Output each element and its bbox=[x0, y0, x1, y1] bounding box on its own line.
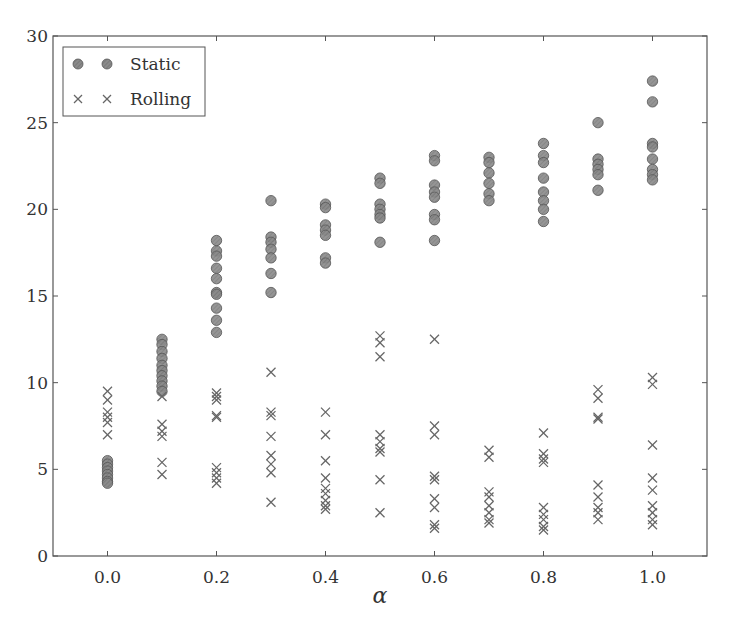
rolling-point bbox=[212, 411, 221, 420]
static-point bbox=[538, 216, 548, 226]
rolling-point bbox=[103, 408, 112, 417]
rolling-point bbox=[158, 427, 167, 436]
rolling-point bbox=[648, 520, 657, 529]
rolling-point bbox=[212, 463, 221, 472]
rolling-point bbox=[539, 428, 548, 437]
rolling-point bbox=[485, 493, 494, 502]
rolling-point bbox=[267, 432, 276, 441]
static-point bbox=[375, 213, 385, 223]
rolling-point bbox=[430, 494, 439, 503]
y-tick-label: 30 bbox=[26, 26, 48, 46]
static-point bbox=[484, 178, 494, 188]
static-point bbox=[593, 117, 603, 127]
rolling-point bbox=[594, 413, 603, 422]
circle-marker-icon bbox=[102, 59, 112, 69]
static-point bbox=[320, 230, 330, 240]
static-point bbox=[320, 258, 330, 268]
static-point bbox=[538, 138, 548, 148]
legend-label-rolling: Rolling bbox=[130, 89, 191, 109]
rolling-point bbox=[648, 441, 657, 450]
y-tick-label: 10 bbox=[26, 373, 48, 393]
rolling-point bbox=[158, 432, 167, 441]
static-point bbox=[484, 195, 494, 205]
x-axis: 0.00.20.40.60.81.0 bbox=[94, 36, 666, 587]
rolling-point bbox=[430, 430, 439, 439]
static-point bbox=[211, 263, 221, 273]
rolling-point bbox=[594, 394, 603, 403]
rolling-point bbox=[648, 515, 657, 524]
rolling-point bbox=[430, 503, 439, 512]
rolling-point bbox=[376, 508, 385, 517]
x-tick-label: 0.2 bbox=[203, 567, 230, 587]
static-point bbox=[211, 303, 221, 313]
static-point bbox=[647, 97, 657, 107]
rolling-point bbox=[321, 484, 330, 493]
static-point bbox=[538, 173, 548, 183]
rolling-point bbox=[594, 415, 603, 424]
static-point bbox=[266, 268, 276, 278]
rolling-point bbox=[158, 458, 167, 467]
static-point bbox=[211, 273, 221, 283]
series-rolling-points bbox=[103, 331, 657, 534]
legend: Static Rolling bbox=[63, 47, 205, 116]
static-point bbox=[593, 169, 603, 179]
static-point bbox=[266, 253, 276, 263]
x-tick-label: 0.0 bbox=[94, 567, 121, 587]
y-tick-label: 25 bbox=[26, 113, 48, 133]
rolling-point bbox=[594, 503, 603, 512]
rolling-point bbox=[321, 456, 330, 465]
static-point bbox=[266, 287, 276, 297]
rolling-point bbox=[212, 413, 221, 422]
rolling-point bbox=[648, 486, 657, 495]
rolling-point bbox=[103, 396, 112, 405]
rolling-point bbox=[267, 451, 276, 460]
static-point bbox=[266, 195, 276, 205]
static-point bbox=[429, 156, 439, 166]
static-point bbox=[102, 478, 112, 488]
static-point bbox=[429, 215, 439, 225]
static-point bbox=[157, 386, 167, 396]
static-point bbox=[211, 289, 221, 299]
y-tick-label: 5 bbox=[37, 459, 48, 479]
rolling-point bbox=[594, 385, 603, 394]
rolling-point bbox=[267, 498, 276, 507]
rolling-point bbox=[430, 422, 439, 431]
rolling-point bbox=[158, 470, 167, 479]
static-point bbox=[211, 315, 221, 325]
rolling-point bbox=[103, 418, 112, 427]
rolling-point bbox=[376, 352, 385, 361]
x-tick-label: 1.0 bbox=[639, 567, 666, 587]
rolling-point bbox=[485, 487, 494, 496]
rolling-point bbox=[321, 474, 330, 483]
static-point bbox=[211, 235, 221, 245]
rolling-point bbox=[376, 338, 385, 347]
static-point bbox=[429, 235, 439, 245]
x-tick-label: 0.6 bbox=[421, 567, 448, 587]
y-tick-label: 0 bbox=[37, 546, 48, 566]
rolling-point bbox=[267, 368, 276, 377]
static-point bbox=[211, 327, 221, 337]
x-tick-label: 0.8 bbox=[530, 567, 557, 587]
legend-label-static: Static bbox=[130, 54, 180, 74]
rolling-point bbox=[485, 453, 494, 462]
x-axis-title: α bbox=[373, 583, 388, 608]
rolling-point bbox=[212, 474, 221, 483]
rolling-point bbox=[539, 510, 548, 519]
rolling-point bbox=[594, 515, 603, 524]
static-point bbox=[647, 76, 657, 86]
static-point bbox=[538, 157, 548, 167]
series-static-points bbox=[102, 76, 657, 489]
static-point bbox=[484, 157, 494, 167]
x-tick-label: 0.4 bbox=[312, 567, 339, 587]
static-point bbox=[538, 204, 548, 214]
rolling-point bbox=[267, 468, 276, 477]
circle-marker-icon bbox=[73, 59, 83, 69]
rolling-point bbox=[103, 387, 112, 396]
scatter-chart: 0.00.20.40.60.81.0 051015202530 Static R… bbox=[0, 0, 734, 629]
y-tick-label: 15 bbox=[26, 286, 48, 306]
rolling-point bbox=[594, 480, 603, 489]
rolling-point bbox=[103, 430, 112, 439]
rolling-point bbox=[212, 468, 221, 477]
rolling-point bbox=[648, 474, 657, 483]
rolling-point bbox=[103, 413, 112, 422]
